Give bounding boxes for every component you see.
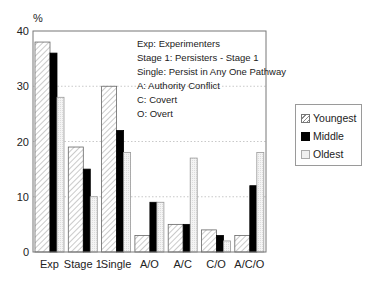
svg-text:O: Overt: O: Overt (137, 108, 173, 119)
svg-text:A/C: A/C (174, 258, 192, 270)
hatched-swatch-icon (301, 114, 310, 123)
svg-text:0: 0 (23, 246, 29, 258)
y-axis-ticks: 010203040 (17, 25, 29, 258)
svg-text:A/C/O: A/C/O (234, 258, 264, 270)
legend-item-youngest: Youngest (301, 112, 356, 124)
svg-text:Single: Single (101, 258, 132, 270)
legend-item-middle: Middle (301, 130, 344, 142)
svg-text:20: 20 (17, 136, 29, 148)
svg-text:40: 40 (17, 25, 29, 37)
svg-text:A/O: A/O (140, 258, 159, 270)
svg-text:C: Covert: C: Covert (137, 94, 177, 105)
dotted-swatch-icon (301, 150, 310, 159)
legend-label: Youngest (313, 112, 356, 124)
svg-text:A: Authority Conflict: A: Authority Conflict (137, 80, 220, 91)
svg-text:Single: Persist in Any One Pat: Single: Persist in Any One Pathway (137, 66, 286, 77)
legend-label: Oldest (313, 148, 343, 160)
svg-text:30: 30 (17, 80, 29, 92)
legend-item-oldest: Oldest (301, 148, 343, 160)
x-axis-ticks: ExpStage 1SingleA/OA/CC/OA/C/O (40, 258, 265, 270)
solid-swatch-icon (301, 132, 310, 141)
svg-text:C/O: C/O (206, 258, 226, 270)
svg-text:Stage 1: Stage 1 (64, 258, 102, 270)
legend: Youngest Middle Oldest (295, 104, 362, 166)
svg-text:Stage 1: Persisters - Stage 1: Stage 1: Persisters - Stage 1 (137, 52, 258, 63)
svg-text:Exp: Exp (40, 258, 59, 270)
legend-label: Middle (313, 130, 344, 142)
svg-text:10: 10 (17, 191, 29, 203)
svg-text:Exp: Experimenters: Exp: Experimenters (137, 38, 220, 49)
annotation-text: Exp: ExperimentersStage 1: Persisters - … (137, 38, 286, 119)
y-axis-label: % (33, 12, 43, 24)
